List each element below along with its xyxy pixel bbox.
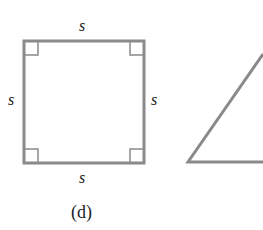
figure-canvas [0,0,263,230]
figure-caption: (d) [71,203,92,221]
partial-triangle [188,54,263,162]
side-label-right: s [151,92,157,108]
side-label-left: s [8,92,14,108]
square [24,41,144,163]
side-label-top: s [79,18,85,34]
side-label-bottom: s [79,170,85,186]
